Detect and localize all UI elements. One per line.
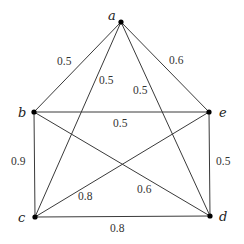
vertex-label-d: d — [219, 209, 227, 224]
edge-a-b — [34, 22, 121, 112]
vertex-label-a: a — [108, 8, 116, 23]
edge-b-c — [34, 112, 35, 217]
edge-weight-c-d: 0.8 — [110, 222, 125, 234]
edge-a-e — [121, 22, 209, 112]
vertex-c — [32, 214, 37, 219]
vertex-b — [31, 109, 36, 114]
edge-c-d — [35, 216, 210, 217]
edge-weight-labels: 0.50.50.50.60.50.90.60.80.80.5 — [11, 54, 231, 234]
edge-weight-a-b: 0.5 — [57, 55, 72, 67]
vertex-a — [118, 19, 123, 24]
edge-weight-a-c: 0.5 — [99, 74, 114, 86]
vertex-d — [207, 213, 212, 218]
edge-weight-b-c: 0.9 — [11, 155, 26, 167]
vertex-label-b: b — [18, 105, 26, 120]
edge-weight-b-e: 0.5 — [113, 117, 128, 129]
edge-weight-e-d: 0.5 — [216, 155, 231, 167]
edge-e-d — [209, 112, 210, 216]
weighted-graph: 0.50.50.50.60.50.90.60.80.80.5 abecd — [0, 0, 244, 244]
edge-weight-a-d: 0.5 — [133, 84, 148, 96]
edge-weight-b-d: 0.6 — [137, 183, 152, 195]
edge-weight-c-e: 0.8 — [78, 190, 93, 202]
vertex-label-e: e — [219, 105, 227, 120]
edge-weight-a-e: 0.6 — [169, 54, 184, 66]
vertex-label-c: c — [18, 210, 26, 225]
edge-a-c — [35, 22, 121, 217]
vertex-e — [206, 109, 211, 114]
